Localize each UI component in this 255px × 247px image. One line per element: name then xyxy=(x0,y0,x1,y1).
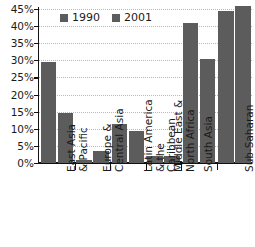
legend-label: 1990 xyxy=(72,12,100,23)
y-tick-label: 45% xyxy=(0,4,34,14)
y-tick-label: 35% xyxy=(0,38,34,48)
y-tick-label: 10% xyxy=(0,124,34,134)
y-tick-label: 20% xyxy=(0,90,34,100)
x-tick-mark xyxy=(110,163,111,170)
y-tick-label: 5% xyxy=(0,141,34,151)
x-tick-mark xyxy=(146,163,147,170)
x-tick-label: Middle East & North Africa xyxy=(173,98,196,172)
y-tick-label: 25% xyxy=(0,72,34,82)
x-tick-label: East Asia & Pacific xyxy=(66,98,89,172)
bar xyxy=(218,11,234,163)
x-tick-label: Sub-Saharan Africa xyxy=(244,98,255,172)
legend-label: 2001 xyxy=(124,12,152,23)
legend-swatch-icon xyxy=(112,14,120,22)
legend-item: 2001 xyxy=(112,12,152,23)
legend-item: 1990 xyxy=(60,12,100,23)
y-tick-label: 40% xyxy=(0,21,34,31)
x-tick-mark xyxy=(217,163,218,170)
x-tick-mark xyxy=(75,163,76,170)
x-tick-label: South Asia xyxy=(203,98,215,172)
x-tick-mark xyxy=(181,163,182,170)
y-tick-label: 0% xyxy=(0,158,34,168)
legend: 1990 2001 xyxy=(60,12,152,23)
x-tick-label: Europe & Central Asia xyxy=(102,98,125,172)
legend-swatch-icon xyxy=(60,14,68,22)
y-tick-label: 30% xyxy=(0,55,34,65)
bar-chart: 45% 40% 35% 30% 25% 20% 15% 10% 5% 0% Ea… xyxy=(0,0,255,247)
y-tick-label: 15% xyxy=(0,107,34,117)
y-axis-labels: 45% 40% 35% 30% 25% 20% 15% 10% 5% 0% xyxy=(0,0,34,163)
bar xyxy=(41,62,57,163)
